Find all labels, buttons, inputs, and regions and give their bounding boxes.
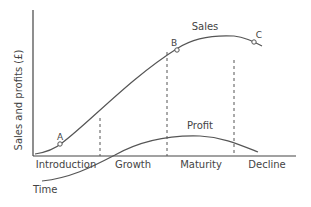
x-axis-label: Time xyxy=(32,184,57,195)
stage-growth-label: Growth xyxy=(115,159,151,170)
point-a-label: A xyxy=(57,132,64,142)
stage-introduction-label: Introduction xyxy=(36,159,97,170)
point-b-marker xyxy=(175,48,179,52)
y-axis-label: Sales and profits (£) xyxy=(13,49,24,150)
point-a-marker xyxy=(58,142,62,146)
profit-label: Profit xyxy=(187,120,213,131)
point-c-label: C xyxy=(256,30,262,40)
stage-decline-label: Decline xyxy=(248,159,285,170)
stage-maturity-label: Maturity xyxy=(180,159,222,170)
product-life-cycle-diagram: Sales and profits (£) Sales Profit A B C… xyxy=(0,0,311,207)
point-b-label: B xyxy=(171,38,177,48)
sales-curve xyxy=(35,36,262,154)
point-c-marker xyxy=(252,40,256,44)
sales-label: Sales xyxy=(192,21,219,32)
